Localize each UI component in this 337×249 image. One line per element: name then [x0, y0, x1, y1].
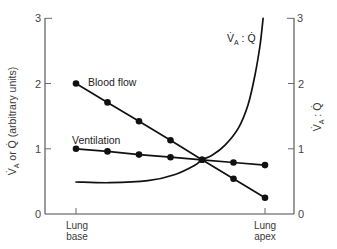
x-label-apex-line2: apex	[254, 231, 276, 242]
blood-flow-label: Blood flow	[88, 76, 137, 88]
ventilation-label: Ventilation	[72, 134, 121, 146]
right-tick-label-2: 2	[298, 78, 304, 90]
x-label-base-line1: Lung	[66, 220, 88, 231]
ventilation-point	[136, 151, 143, 158]
right-tick-labels: 0 1 2 3	[297, 12, 304, 220]
left-tick-label-0: 0	[35, 208, 41, 220]
blood-flow-point	[104, 99, 111, 106]
blood-flow-point	[230, 176, 237, 183]
va-q-ratio-label: V̇A : Q̇	[227, 32, 256, 46]
right-tick-label-0: 0	[298, 208, 304, 220]
left-tick-label-3: 3	[35, 12, 41, 24]
ventilation-point	[73, 146, 80, 153]
left-tick-label-2: 2	[35, 78, 41, 90]
series-layer	[73, 18, 269, 201]
x-label-base-line2: base	[66, 231, 88, 242]
right-tick-label-1: 1	[298, 143, 304, 155]
ventilation-perfusion-chart: 0 1 2 3 0 1 2 3 Lung base Lung apex V̇A …	[0, 0, 337, 249]
blood-flow-point	[73, 80, 80, 87]
right-y-axis-title: V̇A : Q̇	[311, 103, 325, 132]
ventilation-point	[262, 162, 269, 169]
ventilation-point	[104, 148, 111, 155]
left-tick-label-1: 1	[35, 143, 41, 155]
blood-flow-point	[167, 137, 174, 144]
ventilation-point	[230, 159, 237, 166]
ventilation-point	[167, 154, 174, 161]
right-tick-label-3: 3	[297, 12, 303, 24]
blood-flow-point	[136, 118, 143, 125]
left-tick-labels: 0 1 2 3	[35, 12, 41, 220]
axes	[45, 18, 294, 214]
x-category-labels: Lung base Lung apex	[66, 220, 276, 242]
left-y-axis-title: V̇A or Q̇ (arbitrary units)	[6, 67, 20, 176]
blood-flow-point	[262, 194, 269, 201]
x-label-apex-line1: Lung	[254, 220, 276, 231]
